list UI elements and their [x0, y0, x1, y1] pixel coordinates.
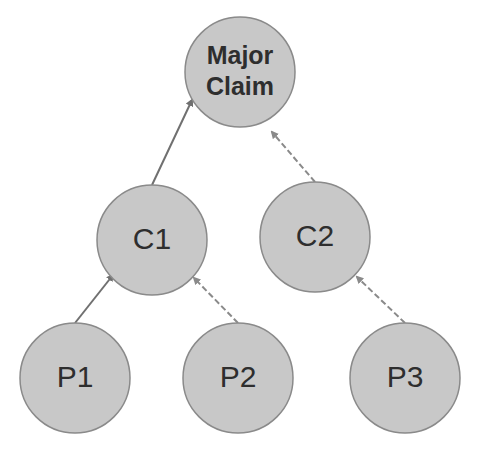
- node-label: C2: [296, 219, 334, 252]
- node-label: P1: [57, 360, 94, 393]
- node-p2: P2: [183, 323, 293, 433]
- argument-tree-diagram: Major Claim C1 C2 P1 P2 P3: [0, 0, 487, 456]
- node-label-line: Claim: [206, 72, 274, 100]
- node-major-claim: Major Claim: [185, 17, 295, 127]
- node-label: P3: [387, 360, 424, 393]
- node-c2: C2: [260, 182, 370, 292]
- edge-p2-to-c1: [194, 278, 238, 323]
- node-c1: C1: [97, 185, 207, 295]
- edge-p3-to-c2: [357, 277, 405, 323]
- node-p1: P1: [20, 323, 130, 433]
- node-label-line: Major: [207, 41, 274, 69]
- node-label: C1: [133, 222, 171, 255]
- node-label: P2: [220, 360, 257, 393]
- edge-c2-to-major-claim: [272, 132, 315, 182]
- node-p3: P3: [350, 323, 460, 433]
- edge-p1-to-c1: [75, 275, 113, 323]
- edge-c1-to-major-claim: [152, 100, 192, 185]
